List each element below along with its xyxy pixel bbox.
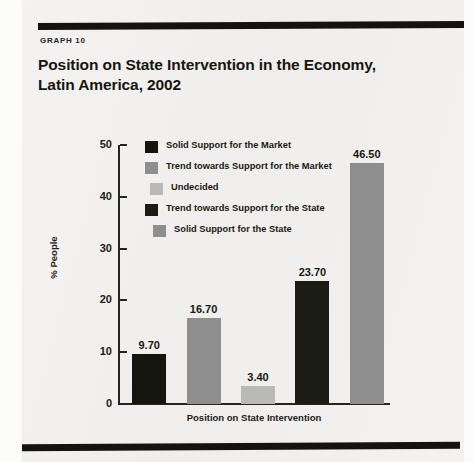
legend-item: Trend towards Support for the Market xyxy=(145,160,375,181)
legend-label: Solid Support for the State xyxy=(174,224,292,234)
legend-swatch xyxy=(150,183,163,195)
bar xyxy=(241,386,275,404)
legend-label: Solid Support for the Market xyxy=(166,140,291,150)
legend-swatch xyxy=(153,225,166,237)
x-axis-title: Position on State Intervention xyxy=(118,412,390,423)
bar-value-label: 16.70 xyxy=(173,303,235,315)
y-tick-label: 20 xyxy=(72,293,112,305)
bar xyxy=(295,281,329,404)
bar-value-label: 3.40 xyxy=(227,371,289,383)
figure-page: GRAPH 10 Position on State Intervention … xyxy=(0,0,474,462)
legend-label: Trend towards Support for the State xyxy=(166,203,325,213)
bar-value-label: 23.70 xyxy=(281,266,343,278)
legend-swatch xyxy=(145,162,158,174)
legend-label: Undecided xyxy=(171,182,219,192)
y-tick-label: 40 xyxy=(72,190,112,202)
chart-legend: Solid Support for the MarketTrend toward… xyxy=(145,139,375,244)
legend-item: Solid Support for the Market xyxy=(145,139,375,160)
legend-item: Undecided xyxy=(145,181,375,202)
y-tick-label: 50 xyxy=(72,138,112,150)
y-tick-label: 30 xyxy=(72,242,112,254)
legend-item: Solid Support for the State xyxy=(145,223,375,244)
legend-item: Trend towards Support for the State xyxy=(145,202,375,223)
legend-swatch xyxy=(145,141,158,153)
bar xyxy=(187,318,221,405)
legend-swatch xyxy=(145,204,158,216)
y-tick-label: 10 xyxy=(72,345,112,357)
y-axis-title: % People xyxy=(48,198,59,318)
bar-value-label: 9.70 xyxy=(118,339,180,351)
y-tick-label: 0 xyxy=(72,397,112,409)
legend-label: Trend towards Support for the Market xyxy=(166,161,332,171)
bar xyxy=(132,354,166,404)
